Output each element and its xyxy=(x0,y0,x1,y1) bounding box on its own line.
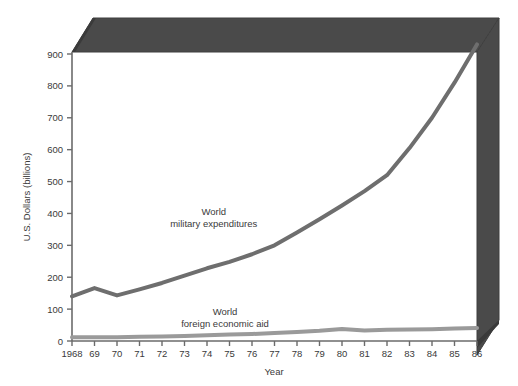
series-annotation-line2: military expenditures xyxy=(170,218,257,229)
x-tick-label: 74 xyxy=(202,348,213,359)
series-line xyxy=(72,328,477,337)
x-axis-ticks: 1968697071727374757677787980818283848586 xyxy=(61,341,482,359)
x-tick-label: 73 xyxy=(179,348,190,359)
x-tick-label: 75 xyxy=(224,348,235,359)
line-chart: 0100200300400500600700800900 19686970717… xyxy=(0,0,518,386)
series-annotation-line1: World xyxy=(213,306,238,317)
x-tick-label: 71 xyxy=(134,348,145,359)
y-tick-label: 0 xyxy=(58,336,63,347)
y-tick-label: 700 xyxy=(47,112,63,123)
series-annotations: Worldmilitary expendituresWorldforeign e… xyxy=(170,206,269,329)
axes xyxy=(72,52,477,341)
x-tick-label: 85 xyxy=(449,348,460,359)
x-tick-label: 86 xyxy=(472,348,483,359)
y-tick-label: 600 xyxy=(47,144,63,155)
y-tick-label: 800 xyxy=(47,80,63,91)
x-tick-label: 69 xyxy=(89,348,100,359)
data-series-group xyxy=(72,44,477,337)
x-tick-label: 77 xyxy=(269,348,280,359)
y-tick-label: 400 xyxy=(47,208,63,219)
x-tick-label: 70 xyxy=(112,348,123,359)
y-tick-label: 200 xyxy=(47,272,63,283)
y-axis-ticks: 0100200300400500600700800900 xyxy=(47,49,72,347)
x-tick-label: 79 xyxy=(314,348,325,359)
y-tick-label: 500 xyxy=(47,176,63,187)
x-tick-label: 82 xyxy=(382,348,393,359)
series-annotation-line2: foreign economic aid xyxy=(181,318,269,329)
x-tick-label: 76 xyxy=(247,348,258,359)
series-line xyxy=(72,44,477,296)
x-tick-label: 81 xyxy=(359,348,370,359)
right-slab xyxy=(477,18,499,355)
y-axis-title: U.S. Dollars (billions) xyxy=(21,153,32,242)
x-axis-title: Year xyxy=(264,366,283,377)
y-tick-label: 100 xyxy=(47,304,63,315)
x-tick-label: 80 xyxy=(337,348,348,359)
y-tick-label: 900 xyxy=(47,49,63,60)
x-tick-label: 83 xyxy=(404,348,415,359)
top-slab xyxy=(72,18,499,52)
y-tick-label: 300 xyxy=(47,240,63,251)
x-tick-label: 1968 xyxy=(61,348,82,359)
chart-3d-frame xyxy=(72,18,499,355)
chart-container: 0100200300400500600700800900 19686970717… xyxy=(0,0,518,386)
series-annotation-line1: World xyxy=(201,206,226,217)
x-tick-label: 78 xyxy=(292,348,303,359)
x-tick-label: 84 xyxy=(427,348,438,359)
x-tick-label: 72 xyxy=(157,348,168,359)
